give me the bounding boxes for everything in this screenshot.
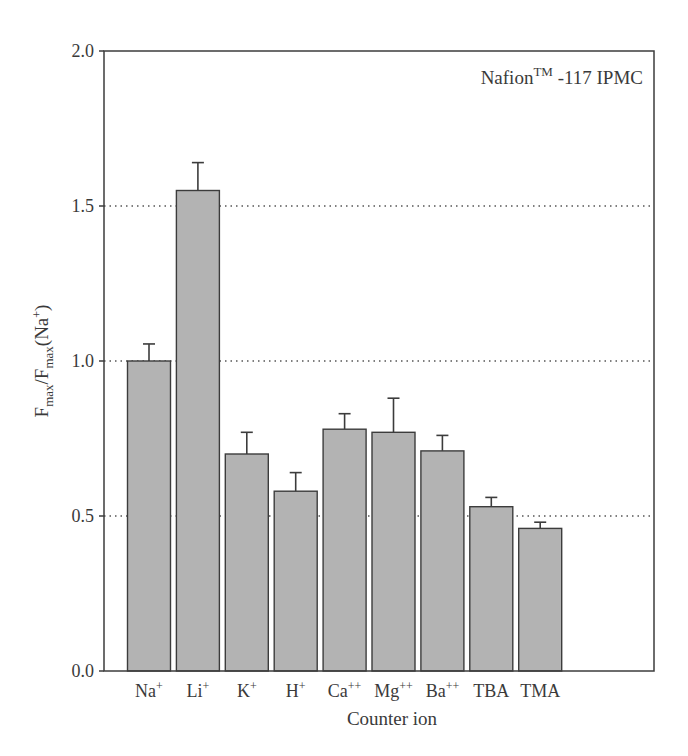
bar-TBA xyxy=(470,497,513,671)
bar-rect xyxy=(176,191,219,672)
bars xyxy=(128,163,562,671)
bar-Na+ xyxy=(128,344,171,671)
bar-rect xyxy=(470,507,513,671)
bar-H+ xyxy=(274,473,317,671)
bar-Ca++ xyxy=(323,414,366,671)
bar-rect xyxy=(421,451,464,671)
bar-K+ xyxy=(225,432,268,671)
y-tick-label: 2.0 xyxy=(72,41,95,61)
bar-rect xyxy=(225,454,268,671)
x-axis-label: Counter ion xyxy=(347,708,438,729)
x-tick-label: Mg++ xyxy=(374,679,413,701)
x-tick-label: K+ xyxy=(237,679,257,701)
x-tick-label: Ca++ xyxy=(328,679,362,701)
y-tick-label: 1.5 xyxy=(72,196,95,216)
x-tick-label: H+ xyxy=(286,679,306,701)
x-tick-label: Na+ xyxy=(135,679,163,701)
bar-Ba++ xyxy=(421,435,464,671)
y-tick-label: 1.0 xyxy=(72,351,95,371)
y-tick-label: 0.0 xyxy=(72,661,95,681)
x-tick-label: TBA xyxy=(473,681,509,701)
bar-Mg++ xyxy=(372,398,415,671)
chart-annotation: NafionTM -117 IPMC xyxy=(481,64,643,88)
x-tick-label: Li+ xyxy=(187,679,210,701)
bar-rect xyxy=(519,528,562,671)
bar-Li+ xyxy=(176,163,219,671)
x-tick-label: TMA xyxy=(520,681,560,701)
bar-rect xyxy=(128,361,171,671)
bar-rect xyxy=(323,429,366,671)
y-axis: 0.00.51.01.52.0 xyxy=(72,41,105,681)
y-axis-label: Fmax/Fmax(Na+) xyxy=(30,305,56,418)
bar-TMA xyxy=(519,522,562,671)
x-axis: Na+Li+K+H+Ca++Mg++Ba++TBATMA xyxy=(135,679,560,701)
bar-rect xyxy=(274,491,317,671)
bar-rect xyxy=(372,432,415,671)
x-tick-label: Ba++ xyxy=(426,679,460,701)
bar-chart: 0.00.51.01.52.0 Na+Li+K+H+Ca++Mg++Ba++TB… xyxy=(0,0,688,756)
y-tick-label: 0.5 xyxy=(72,506,95,526)
